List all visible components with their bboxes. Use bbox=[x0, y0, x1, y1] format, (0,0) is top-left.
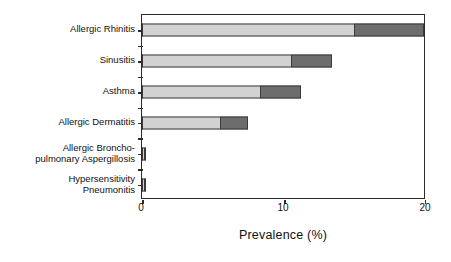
y-axis-category-labels: Allergic Rhinitis Sinusitis Asthma Aller… bbox=[0, 14, 135, 199]
bar-segment-dark bbox=[354, 24, 425, 37]
y-axis-label-allergic-dermatitis: Allergic Dermatitis bbox=[0, 116, 135, 128]
x-axis-ticklabel-0: 0 bbox=[138, 202, 144, 213]
bar-segment-dark bbox=[144, 178, 146, 191]
y-axis-label-hypersensitivity-pneumonitis: Hypersensitivity Pneumonitis bbox=[0, 172, 135, 195]
bar-segment-dark bbox=[144, 147, 146, 160]
plot-area bbox=[141, 14, 425, 199]
y-axis-label-allergic-rhinitis: Allergic Rhinitis bbox=[0, 24, 135, 36]
x-axis-ticklabel-20: 20 bbox=[419, 202, 430, 213]
bar-asthma bbox=[142, 86, 301, 99]
bar-row-asthma bbox=[142, 77, 424, 108]
bar-allergic-dermatitis bbox=[142, 116, 248, 129]
x-axis-ticklabel-10: 10 bbox=[277, 202, 288, 213]
x-axis-title: Prevalence (%) bbox=[141, 228, 425, 242]
bar-segment-light bbox=[142, 24, 354, 37]
y-axis-label-abpa: Allergic Broncho- pulmonary Aspergillosi… bbox=[0, 141, 135, 164]
bar-segment-light bbox=[142, 55, 291, 68]
bar-segment-light bbox=[142, 116, 220, 129]
bar-row-sinusitis bbox=[142, 46, 424, 77]
bar-row-allergic-rhinitis bbox=[142, 15, 424, 46]
bar-segment-dark bbox=[260, 86, 301, 99]
prevalence-bar-chart: Allergic Rhinitis Sinusitis Asthma Aller… bbox=[0, 0, 451, 262]
bar-row-abpa bbox=[142, 138, 424, 169]
bar-abpa bbox=[142, 147, 146, 160]
y-axis-label-sinusitis: Sinusitis bbox=[0, 55, 135, 67]
bar-segment-light bbox=[142, 86, 260, 99]
bar-segment-dark bbox=[291, 55, 332, 68]
bar-row-hypersensitivity-pneumonitis bbox=[142, 169, 424, 200]
bar-segment-dark bbox=[220, 116, 248, 129]
bar-hypersensitivity-pneumonitis bbox=[142, 178, 146, 191]
bar-sinusitis bbox=[142, 55, 332, 68]
y-axis-label-asthma: Asthma bbox=[0, 85, 135, 97]
bar-row-allergic-dermatitis bbox=[142, 108, 424, 139]
bar-allergic-rhinitis bbox=[142, 24, 424, 37]
